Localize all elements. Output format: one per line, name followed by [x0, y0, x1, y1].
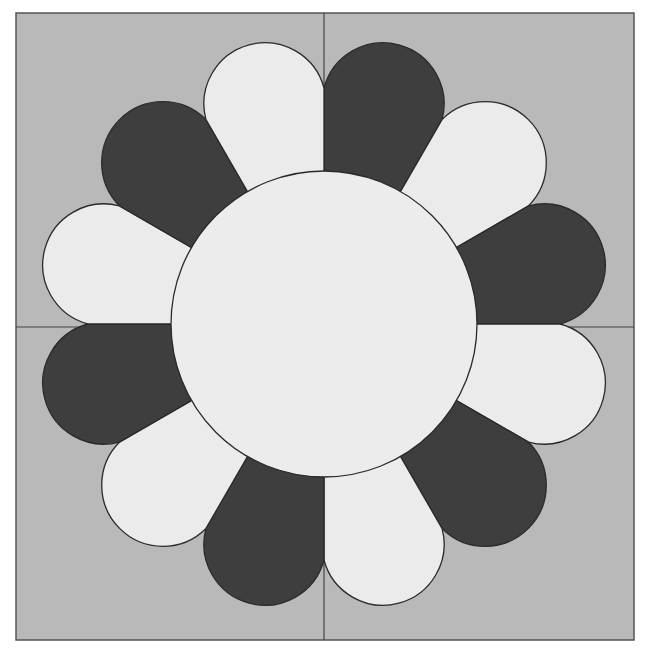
- center-circle: [171, 171, 477, 477]
- quilt-block: [0, 0, 646, 648]
